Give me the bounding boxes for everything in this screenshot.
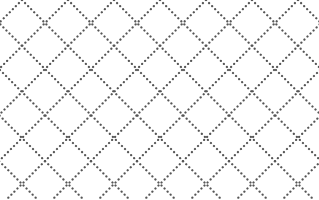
dotted-line-down-left (144, 0, 319, 200)
dotted-line-down-right (252, 0, 319, 200)
dotted-line-down-left (52, 0, 252, 200)
dotted-line-down-right (298, 0, 319, 200)
dotted-line-down-right (160, 0, 319, 200)
dotted-lattice-canvas (0, 0, 319, 200)
dotted-line-down-right (68, 0, 268, 200)
dotted-line-down-left (0, 0, 114, 200)
dotted-line-down-right (206, 0, 319, 200)
dotted-line-down-left (0, 0, 160, 200)
dotted-line-down-left (98, 0, 298, 200)
dotted-line-down-right (114, 0, 314, 200)
dotted-line-down-left (0, 0, 22, 200)
dotted-line-down-left (6, 0, 206, 200)
dotted-line-down-left (0, 0, 68, 200)
diamond-lattice-graphic (0, 0, 319, 200)
dotted-line-down-left (190, 0, 319, 200)
dotted-line-down-right (0, 0, 130, 200)
dotted-line-down-right (22, 0, 222, 200)
dotted-line-down-right (0, 0, 176, 200)
